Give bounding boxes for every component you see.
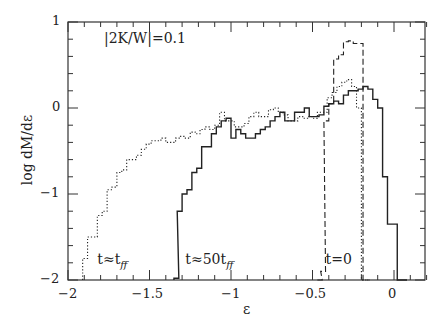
plot-frame	[68, 22, 425, 280]
data-curves	[83, 41, 407, 280]
curve-label: t=0	[326, 251, 352, 267]
y-tick-label: 0	[52, 99, 60, 114]
x-tick-label: −2	[58, 286, 77, 301]
y-tick-label: −1	[40, 185, 59, 200]
x-tick-label: −0.5	[295, 286, 327, 301]
x-tick-label: 0	[388, 286, 396, 301]
curve-label: t≈50tff	[185, 251, 233, 270]
curve-dashed	[317, 41, 368, 280]
y-tick-label: −2	[40, 271, 59, 286]
curve-label: t≈tff	[97, 251, 127, 270]
y-tick-label: 1	[52, 13, 60, 28]
annotation-ratio: |2K/W|=0.1	[104, 30, 186, 46]
chart-plot-area	[0, 0, 445, 324]
x-tick-label: −1	[221, 286, 240, 301]
y-axis-label: log dM/dε	[19, 115, 35, 186]
axis-ticks	[68, 22, 427, 280]
x-axis-label: ε	[243, 301, 250, 317]
x-tick-label: −1.5	[132, 286, 164, 301]
